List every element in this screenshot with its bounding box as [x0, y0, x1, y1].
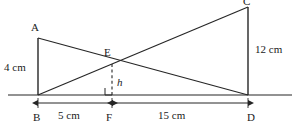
- vertex-label-b: B: [33, 112, 40, 123]
- vertex-label-a: A: [31, 22, 39, 33]
- right-angle-marker: [105, 88, 112, 95]
- vertex-label-d: D: [247, 112, 255, 123]
- geometry-figure: A B C D E F 4 cm 12 cm 5 cm 15 cm h: [0, 0, 301, 129]
- measurement-label-fd: 15 cm: [158, 110, 185, 121]
- measurement-label-cd: 12 cm: [255, 44, 282, 55]
- measurement-label-bf: 5 cm: [58, 110, 80, 121]
- vertex-label-c: C: [243, 0, 250, 7]
- segment-bc: [38, 7, 248, 95]
- diagram-canvas: [0, 0, 301, 129]
- measurement-label-ab: 4 cm: [4, 62, 26, 73]
- vertex-label-f: F: [106, 112, 112, 123]
- vertex-label-e: E: [104, 47, 111, 58]
- segment-ad: [38, 38, 248, 95]
- measurement-label-height: h: [117, 77, 123, 88]
